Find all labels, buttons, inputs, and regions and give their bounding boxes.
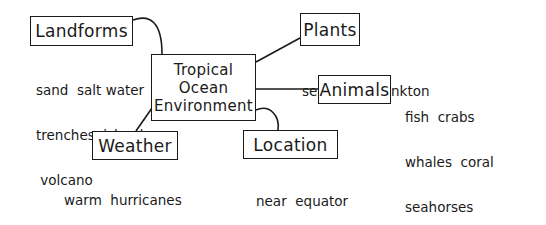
node-label: Weather [98, 136, 172, 156]
connector-landforms [133, 18, 162, 54]
connector-location [256, 108, 278, 130]
node-label: Location [253, 135, 327, 155]
node-plants: Plants [300, 13, 360, 46]
item-line: seahorses [405, 200, 514, 215]
item-line: warm hurricanes [64, 193, 218, 208]
center-line: Environment [154, 97, 253, 115]
center-node: Tropical Ocean Environment [151, 54, 256, 121]
center-line: Tropical [174, 61, 234, 79]
center-line: Ocean [179, 79, 228, 97]
item-line: sand salt water [36, 83, 150, 98]
node-weather: Weather [92, 131, 178, 160]
node-animals: Animals [318, 75, 391, 104]
weather-items: warm hurricanes rain storms sunshine typ… [64, 163, 218, 225]
node-label: Animals [320, 80, 390, 100]
node-label: Landforms [35, 21, 128, 41]
node-landforms: Landforms [30, 16, 133, 46]
item-line: whales coral [405, 155, 514, 170]
connector-plants [256, 38, 300, 62]
item-line: fish crabs [405, 110, 514, 125]
location-items: near equator [256, 164, 348, 224]
item-line: near equator [256, 194, 348, 209]
node-label: Plants [303, 20, 357, 40]
animals-items: fish crabs whales coral seahorses sharks… [405, 80, 514, 225]
node-location: Location [243, 130, 338, 159]
